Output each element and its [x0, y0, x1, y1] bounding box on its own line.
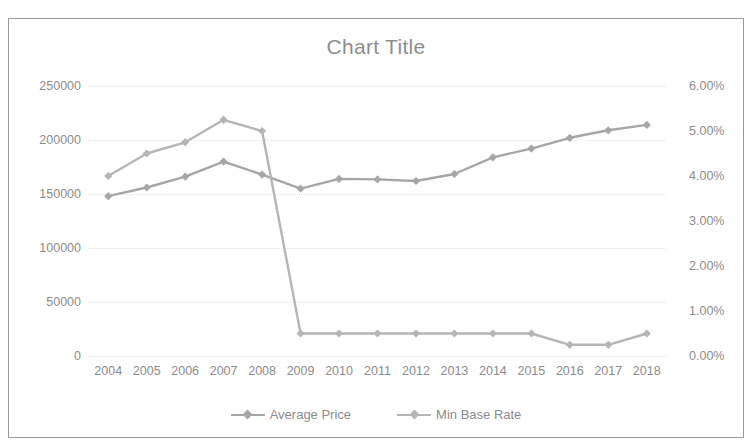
- y-axis-right: 0.00%1.00%2.00%3.00%4.00%5.00%6.00%: [675, 86, 745, 356]
- x-axis-tick-label: 2006: [171, 364, 199, 378]
- x-axis-tick-label: 2008: [248, 364, 276, 378]
- x-axis-tick-label: 2010: [325, 364, 353, 378]
- y-axis-left: 050000100000150000200000250000: [15, 86, 81, 356]
- y-axis-left-tick-label: 100000: [39, 241, 81, 255]
- legend-item[interactable]: Min Base Rate: [397, 407, 521, 422]
- data-point-marker: [258, 171, 266, 179]
- data-point-marker: [412, 329, 420, 337]
- data-point-marker: [604, 341, 612, 349]
- legend-marker-icon: [397, 409, 431, 421]
- data-point-marker: [258, 127, 266, 135]
- data-point-marker: [373, 329, 381, 337]
- data-point-marker: [489, 329, 497, 337]
- series-line: [108, 120, 647, 345]
- data-point-marker: [335, 329, 343, 337]
- data-point-marker: [220, 158, 228, 166]
- data-point-marker: [412, 177, 420, 185]
- x-axis-tick-label: 2016: [556, 364, 584, 378]
- series-layer: [89, 86, 666, 356]
- data-point-marker: [181, 173, 189, 181]
- y-axis-left-tick-label: 200000: [39, 133, 81, 147]
- y-axis-right-tick-label: 6.00%: [689, 79, 724, 93]
- x-axis-tick-label: 2017: [594, 364, 622, 378]
- legend-label: Min Base Rate: [436, 407, 521, 422]
- x-axis-tick-label: 2013: [441, 364, 469, 378]
- y-axis-left-tick-label: 250000: [39, 79, 81, 93]
- gridline: [89, 356, 666, 358]
- data-point-marker: [604, 126, 612, 134]
- x-axis-tick-label: 2009: [287, 364, 315, 378]
- data-point-marker: [450, 170, 458, 178]
- plot-area: [89, 86, 666, 356]
- y-axis-right-tick-label: 0.00%: [689, 349, 724, 363]
- chart-title: Chart Title: [9, 35, 743, 59]
- x-axis-tick-label: 2018: [633, 364, 661, 378]
- y-axis-right-tick-label: 3.00%: [689, 214, 724, 228]
- series-line: [108, 125, 647, 196]
- data-point-marker: [643, 121, 651, 129]
- x-axis-tick-label: 2014: [479, 364, 507, 378]
- scan-artifact-text: [0, 0, 754, 16]
- x-axis-tick-label: 2005: [133, 364, 161, 378]
- legend-marker-icon: [231, 409, 265, 421]
- x-axis-tick-label: 2012: [402, 364, 430, 378]
- data-point-marker: [373, 175, 381, 183]
- legend-item[interactable]: Average Price: [231, 407, 351, 422]
- data-point-marker: [566, 341, 574, 349]
- x-axis-tick-label: 2015: [517, 364, 545, 378]
- data-point-marker: [489, 153, 497, 161]
- data-point-marker: [527, 145, 535, 153]
- x-axis-tick-label: 2011: [364, 364, 391, 378]
- data-point-marker: [297, 185, 305, 193]
- legend-label: Average Price: [270, 407, 351, 422]
- data-point-marker: [450, 329, 458, 337]
- data-point-marker: [335, 175, 343, 183]
- data-point-marker: [297, 329, 305, 337]
- series-min-base-rate: [104, 116, 651, 349]
- y-axis-left-tick-label: 0: [74, 349, 81, 363]
- x-axis-tick-label: 2007: [210, 364, 238, 378]
- y-axis-left-tick-label: 150000: [39, 187, 81, 201]
- data-point-marker: [527, 329, 535, 337]
- x-axis: 2004200520062007200820092010201120122013…: [89, 364, 666, 388]
- data-point-marker: [566, 134, 574, 142]
- data-point-marker: [104, 192, 112, 200]
- y-axis-right-tick-label: 2.00%: [689, 259, 724, 273]
- data-point-marker: [143, 183, 151, 191]
- y-axis-left-tick-label: 50000: [46, 295, 81, 309]
- data-point-marker: [643, 329, 651, 337]
- chart-frame: Chart Title 0500001000001500002000002500…: [8, 18, 744, 438]
- series-average-price: [104, 121, 651, 201]
- chart-legend: Average PriceMin Base Rate: [9, 407, 743, 422]
- y-axis-right-tick-label: 1.00%: [689, 304, 724, 318]
- y-axis-right-tick-label: 5.00%: [689, 124, 724, 138]
- x-axis-tick-label: 2004: [94, 364, 122, 378]
- y-axis-right-tick-label: 4.00%: [689, 169, 724, 183]
